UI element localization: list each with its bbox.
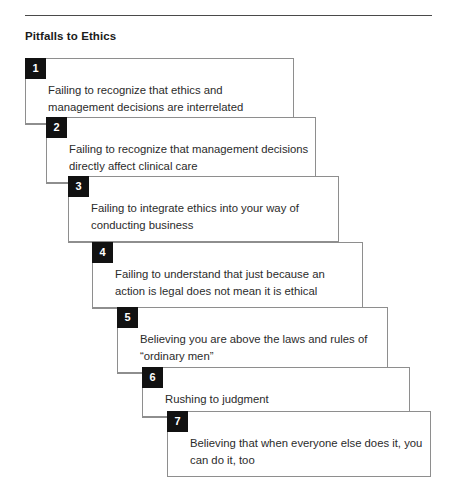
staircase-steps-container: 1Failing to recognize that ethics and ma… xyxy=(0,0,449,477)
step-description: Believing you are above the laws and rul… xyxy=(140,331,381,365)
step-box-1: 1Failing to recognize that ethics and ma… xyxy=(25,58,294,124)
step-number-badge: 2 xyxy=(46,117,67,138)
step-number-badge: 6 xyxy=(142,367,163,388)
step-description: Failing to recognize that management dec… xyxy=(69,141,309,175)
step-number-badge: 7 xyxy=(167,411,188,432)
step-box-6: 6Rushing to judgment xyxy=(142,367,410,417)
step-number-badge: 3 xyxy=(68,176,89,197)
step-description: Failing to recognize that ethics and man… xyxy=(48,82,287,116)
step-box-5: 5Believing you are above the laws and ru… xyxy=(117,307,388,373)
step-description: Failing to understand that just because … xyxy=(115,266,356,300)
step-box-2: 2Failing to recognize that management de… xyxy=(46,117,316,183)
step-box-3: 3Failing to integrate ethics into your w… xyxy=(68,176,339,242)
step-number-badge: 5 xyxy=(117,307,138,328)
step-number-badge: 4 xyxy=(92,242,113,263)
step-box-4: 4Failing to understand that just because… xyxy=(92,242,363,308)
step-description: Believing that when everyone else does i… xyxy=(190,435,424,469)
step-description: Failing to integrate ethics into your wa… xyxy=(91,200,332,234)
figure-pitfalls-to-ethics: Pitfalls to Ethics 1Failing to recognize… xyxy=(0,0,449,477)
step-number-badge: 1 xyxy=(25,58,46,79)
step-description: Rushing to judgment xyxy=(165,391,403,408)
step-box-7: 7Believing that when everyone else does … xyxy=(167,411,431,477)
